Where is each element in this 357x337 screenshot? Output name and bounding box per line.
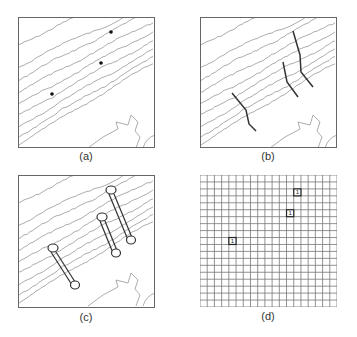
contour-line [88,115,140,148]
contour-line [200,49,335,128]
seed-point [99,61,103,65]
contour-line [18,17,153,45]
contour-line [18,207,153,286]
caption-d: (d) [248,310,288,322]
caption-b: (b) [248,150,288,162]
contour-line [200,41,335,114]
bone-region [48,244,80,289]
contour-line [270,115,322,148]
contour-line [18,17,153,81]
bone-region [97,213,121,257]
contour-line [18,175,153,203]
panel-a [18,17,155,148]
labeled-cell: 1 [229,238,236,245]
caption-c: (c) [66,311,106,323]
contour-line [143,135,155,148]
contour-map-a [18,17,155,148]
panel-b [200,17,337,148]
panel-border [19,18,155,148]
seed-point [109,30,113,34]
contour-line [200,23,335,93]
contour-line [143,293,155,306]
contour-map-b [200,17,337,148]
seed-point [50,92,54,96]
labeled-cell: 1 [294,189,301,196]
user-stroke [293,31,313,87]
panel-d: 111 [200,175,337,307]
contour-line [18,49,153,128]
contour-line [18,41,153,114]
contour-line [18,175,153,239]
panel-c [18,175,155,308]
caption-a: (a) [66,150,106,162]
user-stroke [283,62,298,97]
grid-d: 111 [200,175,337,307]
contour-map-c [18,175,155,308]
contour-line [325,135,337,148]
contour-line [200,17,335,81]
panel-border [201,18,337,148]
contour-line [200,17,335,45]
labeled-cell: 1 [287,210,294,217]
contour-line [18,23,153,93]
contour-line [18,199,153,272]
contour-line [88,273,140,306]
